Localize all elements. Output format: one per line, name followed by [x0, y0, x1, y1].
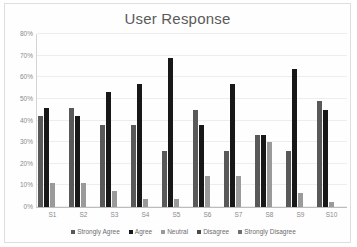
- bar-groups: S1S2S3S4S5S6S7S8S9S10: [37, 34, 347, 207]
- bars: [286, 34, 316, 207]
- bar[interactable]: [100, 125, 105, 207]
- bar[interactable]: [267, 142, 272, 207]
- legend-swatch-icon: [238, 230, 242, 234]
- bar-group: S6: [192, 34, 223, 207]
- x-axis-tick-label: S9: [285, 211, 316, 218]
- bar[interactable]: [329, 202, 334, 207]
- y-axis-tick-label: 60%: [20, 73, 33, 80]
- x-axis-tick-label: S2: [68, 211, 99, 218]
- bar[interactable]: [38, 116, 43, 207]
- bar[interactable]: [174, 199, 179, 207]
- bar-group: S1: [37, 34, 68, 207]
- bar[interactable]: [298, 193, 303, 207]
- bars: [100, 34, 130, 207]
- legend-item[interactable]: Disagree: [197, 228, 229, 235]
- bar[interactable]: [106, 92, 111, 207]
- bars: [317, 34, 347, 207]
- bar[interactable]: [50, 183, 55, 207]
- bar[interactable]: [112, 191, 117, 207]
- bars: [224, 34, 254, 207]
- bars: [38, 34, 68, 207]
- bar-group: S4: [130, 34, 161, 207]
- chart-legend: Strongly AgreeAgreeNeutralDisagreeStrong…: [5, 228, 357, 235]
- bars: [193, 34, 223, 207]
- legend-swatch-icon: [129, 230, 133, 234]
- bar[interactable]: [199, 125, 204, 207]
- bar[interactable]: [261, 135, 266, 207]
- y-axis-tick-label: 50%: [20, 94, 33, 101]
- legend-item[interactable]: Strongly Agree: [71, 228, 120, 235]
- legend-label: Disagree: [203, 228, 229, 235]
- x-axis-tick-label: S6: [192, 211, 223, 218]
- bar-group: S5: [161, 34, 192, 207]
- bar[interactable]: [317, 101, 322, 207]
- bar[interactable]: [255, 135, 260, 207]
- y-axis-tick-label: 40%: [20, 116, 33, 123]
- bar[interactable]: [168, 58, 173, 207]
- bar[interactable]: [224, 151, 229, 207]
- bar[interactable]: [81, 183, 86, 207]
- legend-swatch-icon: [71, 230, 75, 234]
- legend-item[interactable]: Strongly Disagree: [238, 228, 296, 235]
- x-axis-tick-label: S5: [161, 211, 192, 218]
- legend-item[interactable]: Neutral: [161, 228, 188, 235]
- legend-swatch-icon: [161, 230, 165, 234]
- legend-label: Neutral: [167, 228, 188, 235]
- bar[interactable]: [75, 116, 80, 207]
- bar-group: S9: [285, 34, 316, 207]
- bar[interactable]: [292, 69, 297, 207]
- bar[interactable]: [162, 151, 167, 207]
- x-axis-tick-label: S3: [99, 211, 130, 218]
- bar[interactable]: [143, 199, 148, 207]
- x-axis-tick-label: S4: [130, 211, 161, 218]
- bar-group: S8: [254, 34, 285, 207]
- y-axis-tick-label: 30%: [20, 138, 33, 145]
- y-axis-tick-label: 10%: [20, 181, 33, 188]
- y-axis-tick-label: 70%: [20, 51, 33, 58]
- bar[interactable]: [205, 176, 210, 207]
- bar[interactable]: [131, 125, 136, 207]
- x-axis-tick-label: S8: [254, 211, 285, 218]
- bar[interactable]: [193, 110, 198, 207]
- legend-swatch-icon: [197, 230, 201, 234]
- legend-label: Strongly Disagree: [244, 228, 296, 235]
- bars: [131, 34, 161, 207]
- bar[interactable]: [69, 108, 74, 207]
- bar[interactable]: [286, 151, 291, 207]
- bar[interactable]: [323, 110, 328, 207]
- chart-container: User Response 0%10%20%30%40%50%60%70%80%…: [4, 3, 351, 243]
- bar[interactable]: [137, 84, 142, 207]
- bars: [69, 34, 99, 207]
- x-axis-tick-label: S7: [223, 211, 254, 218]
- bar-group: S10: [316, 34, 347, 207]
- y-axis-tick-label: 20%: [20, 159, 33, 166]
- bar-group: S7: [223, 34, 254, 207]
- legend-item[interactable]: Agree: [129, 228, 152, 235]
- legend-label: Agree: [135, 228, 152, 235]
- bar[interactable]: [230, 84, 235, 207]
- bars: [162, 34, 192, 207]
- bars: [255, 34, 285, 207]
- y-axis-tick-label: 80%: [20, 30, 33, 37]
- y-axis-tick-label: 0%: [24, 203, 33, 210]
- x-axis-tick-label: S1: [37, 211, 68, 218]
- bar-group: S3: [99, 34, 130, 207]
- bar[interactable]: [236, 176, 241, 207]
- chart-title: User Response: [5, 10, 350, 27]
- bar[interactable]: [44, 108, 49, 207]
- bar-group: S2: [68, 34, 99, 207]
- x-axis-tick-label: S10: [316, 211, 347, 218]
- legend-label: Strongly Agree: [77, 228, 120, 235]
- plot-area: 0%10%20%30%40%50%60%70%80% S1S2S3S4S5S6S…: [36, 34, 347, 208]
